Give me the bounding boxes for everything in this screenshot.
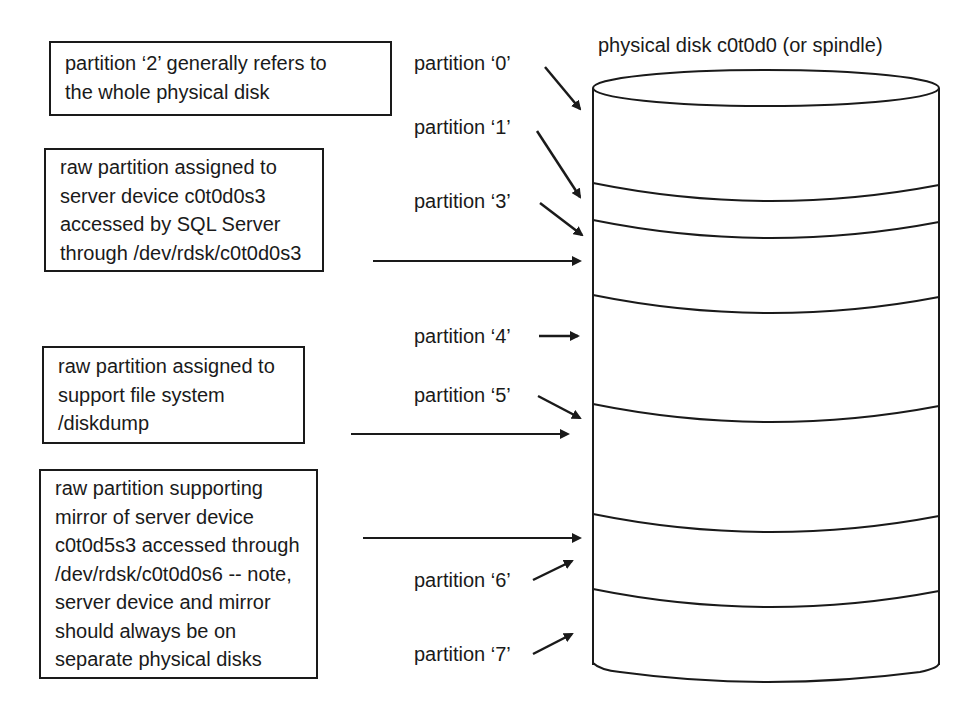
note-line: server device and mirror: [55, 588, 306, 617]
partition-divider: [593, 220, 939, 238]
partition-divider: [593, 589, 939, 607]
note-line: through /dev/rdsk/c0t0d0s3: [60, 239, 312, 268]
arrow-partition-5: [538, 396, 580, 418]
note-file-system: raw partition assigned to support file s…: [42, 346, 305, 444]
note-line: raw partition assigned to: [60, 153, 312, 182]
note-line: partition ‘2’ generally refers to: [65, 49, 380, 78]
note-line: /dev/rdsk/c0t0d0s6 -- note,: [55, 560, 306, 589]
note-server-device: raw partition assigned to server device …: [44, 148, 324, 272]
arrow-partition-6: [533, 561, 572, 580]
note-whole-disk: partition ‘2’ generally refers to the wh…: [49, 41, 392, 116]
note-line: support file system: [58, 381, 293, 410]
partition-divider: [593, 183, 939, 201]
arrow-partition-1: [537, 131, 580, 197]
disk-top-ellipse: [593, 70, 939, 106]
partition-label-5: partition ‘5’: [414, 383, 511, 407]
note-line: raw partition assigned to: [58, 352, 293, 381]
arrow-partition-0: [545, 67, 580, 109]
note-line: mirror of server device: [55, 503, 306, 532]
partition-label-0: partition ‘0’: [414, 51, 511, 75]
partition-label-7: partition ‘7’: [414, 642, 511, 666]
partition-label-4: partition ‘4’: [414, 324, 511, 348]
note-line: server device c0t0d0s3: [60, 182, 312, 211]
partition-label-1: partition ‘1’: [414, 115, 511, 139]
arrow-partition-7: [533, 634, 572, 654]
note-line: c0t0d5s3 accessed through: [55, 531, 306, 560]
arrow-partition-3: [540, 203, 582, 235]
note-line: the whole physical disk: [65, 78, 380, 107]
partition-label-3: partition ‘3’: [414, 189, 511, 213]
note-mirror: raw partition supporting mirror of serve…: [39, 469, 318, 679]
disk-bottom-arc: [593, 663, 939, 682]
note-line: separate physical disks: [55, 645, 306, 674]
disk-title: physical disk c0t0d0 (or spindle): [598, 33, 883, 57]
partition-divider: [593, 404, 939, 422]
note-line: /diskdump: [58, 409, 293, 438]
partition-label-6: partition ‘6’: [414, 568, 511, 592]
disk-cylinder: [593, 70, 939, 682]
note-line: accessed by SQL Server: [60, 210, 312, 239]
note-line: should always be on: [55, 617, 306, 646]
partition-divider: [593, 514, 939, 532]
note-line: raw partition supporting: [55, 474, 306, 503]
partition-divider: [593, 295, 939, 313]
arrows: [351, 67, 582, 654]
